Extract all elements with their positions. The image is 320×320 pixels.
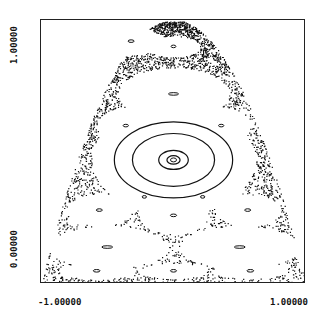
x-tick-left: -1.00000 — [38, 297, 81, 307]
plot-area — [40, 19, 305, 283]
y-tick-bottom: 0.00000 — [9, 230, 19, 268]
x-tick-right: 1.00000 — [270, 297, 308, 307]
y-tick-top: 1.00000 — [9, 26, 19, 64]
phase-portrait — [41, 20, 305, 283]
